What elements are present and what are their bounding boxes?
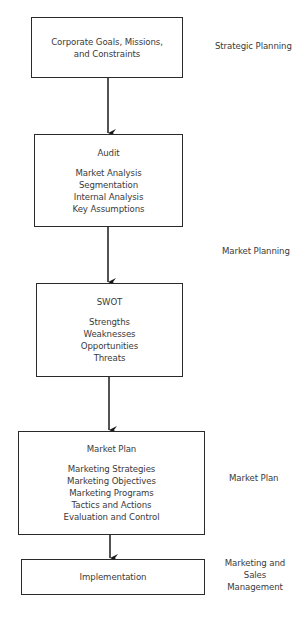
box-line: Marketing Programs <box>69 487 154 499</box>
side-label-line: Marketing and <box>224 557 286 569</box>
side-label-market-planning: Market Planning <box>222 245 290 257</box>
box-line: and Constraints <box>74 48 140 60</box>
box-swot: SWOT Strengths Weaknesses Opportunities … <box>36 283 183 377</box>
box-corporate-goals: Corporate Goals, Missions, and Constrain… <box>31 17 183 78</box>
box-line: Weaknesses <box>84 328 136 340</box>
box-line: Marketing Objectives <box>67 475 156 487</box>
side-label-line: Sales <box>224 569 286 581</box>
box-implementation: Implementation <box>21 559 205 595</box>
box-title: Market Plan <box>87 443 136 455</box>
box-line: Opportunities <box>81 340 138 352</box>
box-line: Corporate Goals, Missions, <box>51 36 163 48</box>
side-label-line: Management <box>224 581 286 593</box>
box-line: Internal Analysis <box>74 191 144 203</box>
box-line: Implementation <box>80 571 147 583</box>
box-line: Tactics and Actions <box>72 499 152 511</box>
side-label-line: Strategic Planning <box>215 40 292 52</box>
side-label-marketing-sales-management: Marketing and Sales Management <box>224 557 286 593</box>
box-line: Evaluation and Control <box>64 511 160 523</box>
box-market-plan: Market Plan Marketing Strategies Marketi… <box>18 431 205 535</box>
box-line: Segmentation <box>79 179 138 191</box>
box-line: Key Assumptions <box>73 203 145 215</box>
side-label-line: Market Planning <box>222 245 290 257</box>
box-title: SWOT <box>97 296 123 308</box>
box-audit: Audit Market Analysis Segmentation Inter… <box>34 134 183 227</box>
box-title: Audit <box>97 147 119 159</box>
box-line: Threats <box>94 352 126 364</box>
side-label-line: Market Plan <box>229 472 278 484</box>
side-label-market-plan: Market Plan <box>229 472 278 484</box>
box-line: Marketing Strategies <box>68 463 155 475</box>
box-line: Strengths <box>89 316 130 328</box>
side-label-strategic-planning: Strategic Planning <box>215 40 292 52</box>
box-line: Market Analysis <box>75 167 141 179</box>
